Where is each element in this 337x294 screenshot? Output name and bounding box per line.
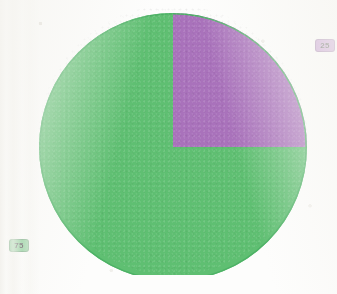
pie-chart-svg: [38, 5, 308, 275]
pie-label-green: 75: [9, 239, 29, 252]
pie-label-purple: 25: [315, 39, 335, 52]
pie-chart-page: 75 25: [0, 0, 337, 294]
pie-chart: [38, 5, 308, 275]
pie-slice-purple[interactable]: [173, 13, 307, 147]
